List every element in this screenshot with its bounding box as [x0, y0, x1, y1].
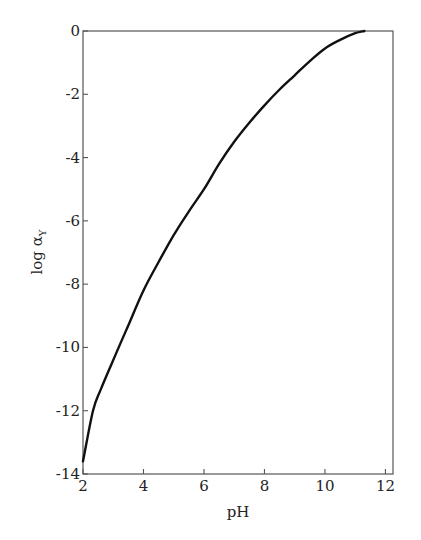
- x-axis: 24681012: [78, 469, 395, 495]
- y-tick-label: -6: [65, 212, 80, 230]
- x-axis-label: pH: [227, 503, 250, 521]
- x-tick-label: 6: [199, 477, 209, 495]
- y-axis-label-subscript: Y: [37, 229, 48, 237]
- plot-frame: [83, 31, 393, 474]
- y-tick-label: -2: [65, 85, 80, 103]
- series-line: [83, 31, 364, 461]
- x-tick-label: 12: [376, 477, 395, 495]
- y-tick-label: 0: [70, 22, 80, 40]
- y-axis-label: log αY: [28, 229, 48, 274]
- y-tick-label: -12: [56, 402, 80, 420]
- x-tick-label: 8: [260, 477, 270, 495]
- y-tick-label: -4: [65, 149, 80, 167]
- y-tick-label: -10: [56, 338, 80, 356]
- y-axis-label-main: log α: [28, 236, 46, 274]
- chart: 24681012 0-2-4-6-8-10-12-14 pH log αY: [0, 0, 421, 540]
- y-tick-label: -14: [56, 465, 80, 483]
- x-tick-label: 4: [139, 477, 149, 495]
- y-tick-label: -8: [65, 275, 80, 293]
- x-tick-label: 10: [315, 477, 334, 495]
